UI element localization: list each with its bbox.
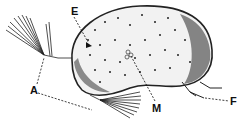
label-e: E [71,6,78,17]
label-m: M [152,103,161,114]
ostracod-figure [0,0,244,127]
upper-antenna [6,15,72,58]
label-a: A [30,85,38,96]
label-f: F [230,96,237,107]
